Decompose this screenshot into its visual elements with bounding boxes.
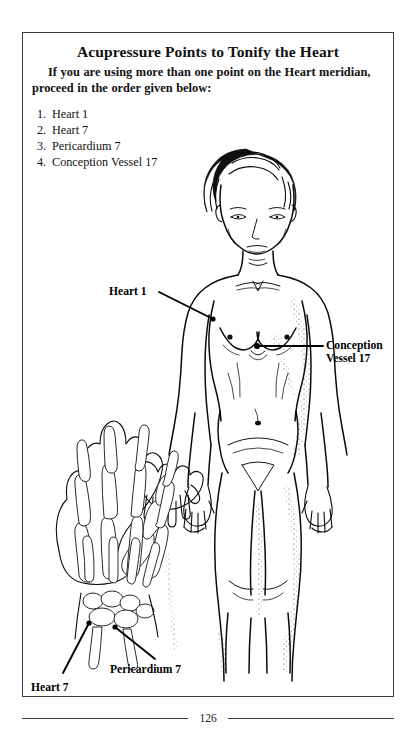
point-pericardium-7 [112, 624, 117, 629]
list-item: 1.Heart 1 [37, 106, 393, 122]
intro-paragraph: If you are using more than one point on … [32, 65, 383, 97]
page-number: 126 [188, 712, 227, 724]
callout-conception-vessel-17: Conception Vessel 17 [326, 339, 383, 366]
point-heart-7 [86, 620, 91, 625]
body-acupoints [159, 292, 323, 349]
callout-line-2: Vessel 17 [326, 352, 383, 365]
list-item-label: Heart 7 [52, 123, 88, 137]
scanned-page: .ol { fill:none; stroke:#0b0b0b; stroke-… [0, 0, 416, 747]
list-item-label: Pericardium 7 [52, 139, 121, 153]
list-item-number: 1. [37, 106, 52, 122]
list-item-number: 3. [37, 138, 52, 154]
page-title: Acupressure Points to Tonify the Heart [29, 43, 387, 60]
point-order-list: 1.Heart 1 2.Heart 7 3.Pericardium 7 4.Co… [23, 106, 393, 170]
callout-heart-1: Heart 1 [109, 285, 147, 298]
leader-heart-7 [63, 623, 89, 673]
list-item-number: 4. [37, 154, 52, 170]
figure-left-hand [184, 486, 214, 533]
figure-edge-texture [165, 553, 178, 652]
list-item-label: Conception Vessel 17 [52, 155, 157, 169]
figure-right-hand [302, 486, 332, 533]
callout-pericardium-7: Pericardium 7 [110, 663, 181, 676]
list-item: 2.Heart 7 [37, 122, 393, 138]
figure-head [216, 185, 296, 275]
figure-legs [215, 473, 302, 681]
hand-silhouette-inset [138, 462, 203, 527]
point-conception-vessel-17 [254, 343, 260, 349]
figure-arms [184, 315, 332, 533]
footer-rule-right [228, 718, 394, 719]
list-item-label: Heart 1 [52, 107, 88, 121]
hand-skeleton-diagram [56, 421, 178, 670]
page-content-frame: .ol { fill:none; stroke:#0b0b0b; stroke-… [22, 32, 394, 697]
list-item: 4.Conception Vessel 17 [37, 154, 393, 170]
point-heart-1 [210, 316, 215, 321]
leader-pericardium-7 [115, 627, 155, 659]
leader-heart-1 [159, 292, 213, 319]
callout-line-1: Conception [326, 339, 383, 352]
footer-rule-left [22, 718, 188, 719]
page-footer: 126 [22, 706, 394, 730]
anatomical-female-figure [169, 149, 347, 681]
list-item: 3.Pericardium 7 [37, 138, 393, 154]
callout-heart-7: Heart 7 [31, 681, 69, 694]
figure-torso [169, 275, 347, 491]
list-item-number: 2. [37, 122, 52, 138]
figure-shading [218, 299, 310, 673]
